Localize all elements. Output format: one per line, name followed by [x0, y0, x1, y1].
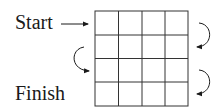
snake-path-diagram — [0, 0, 214, 111]
grid-4x4 — [95, 11, 188, 106]
curved-arrow-right-1-icon — [197, 23, 210, 47]
curved-arrow-right-2-icon — [197, 70, 210, 94]
curved-arrow-left-icon — [74, 47, 89, 71]
